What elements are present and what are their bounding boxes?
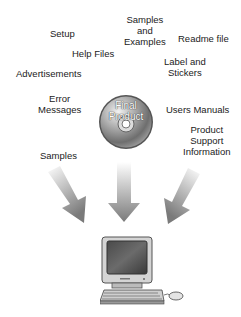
arrow-left-diagonal-icon bbox=[48, 166, 86, 223]
label-users-manuals: Users Manuals bbox=[166, 104, 229, 115]
label-label-stickers: Label and Stickers bbox=[164, 56, 206, 78]
label-readme: Readme file bbox=[178, 33, 229, 44]
desktop-computer-icon bbox=[100, 235, 190, 311]
arrow-down-icon bbox=[108, 162, 140, 222]
label-error-messages: Error Messages bbox=[38, 93, 81, 115]
label-samples-examples: Samples and Examples bbox=[124, 14, 166, 47]
arrows bbox=[0, 160, 241, 235]
label-setup: Setup bbox=[50, 28, 75, 39]
label-advertisements: Advertisements bbox=[16, 68, 81, 79]
arrow-right-diagonal-icon bbox=[164, 168, 200, 224]
label-help-files: Help Files bbox=[72, 48, 114, 59]
label-product-support: Product Support Information bbox=[183, 124, 231, 157]
center-label: Final Product bbox=[98, 100, 154, 122]
